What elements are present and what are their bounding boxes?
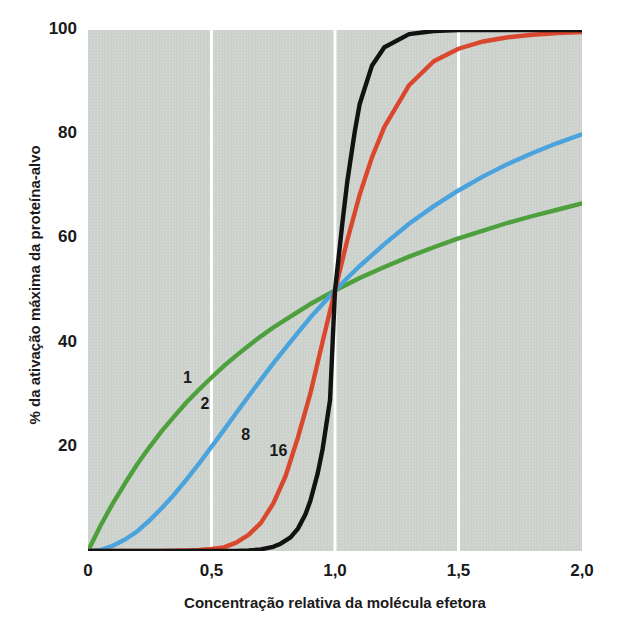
plot-area xyxy=(0,0,619,637)
x-axis-tick-label: 0,5 xyxy=(182,561,242,581)
y-axis-tick-label: 80 xyxy=(31,123,77,143)
right-mask xyxy=(582,0,619,637)
y-axis-tick-label: 20 xyxy=(31,436,77,456)
curve-label-1: 1 xyxy=(183,369,192,387)
y-axis-tick-label: 100 xyxy=(31,19,77,39)
curve-label-2: 2 xyxy=(200,395,209,413)
x-axis-tick-label: 1,0 xyxy=(305,561,365,581)
y-axis-tick-label: 40 xyxy=(31,332,77,352)
left-mask xyxy=(0,0,88,637)
y-axis-tick-label: 60 xyxy=(31,227,77,247)
chart-figure: % da ativação máxima da proteína-alvo Co… xyxy=(0,0,619,637)
curve-label-8: 8 xyxy=(241,426,250,444)
x-axis-tick-label: 2,0 xyxy=(552,561,612,581)
top-mask xyxy=(0,0,619,30)
y-axis-label: % da ativação máxima da proteína-alvo xyxy=(26,165,43,425)
x-axis-tick-label: 0 xyxy=(58,561,118,581)
curve-label-16: 16 xyxy=(270,442,288,460)
x-axis-tick-label: 1,5 xyxy=(429,561,489,581)
x-axis-label: Concentração relativa da molécula efetor… xyxy=(88,594,582,611)
